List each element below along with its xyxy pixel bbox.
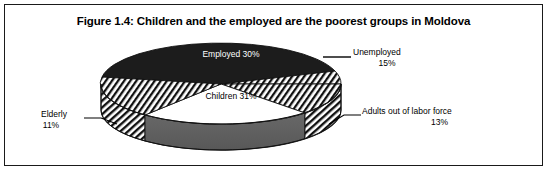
callout-label-adults-percent: 13% [362,117,482,128]
slice-label-employed-name: Employed [202,49,240,59]
figure-frame: Figure 1.4: Children and the employed ar… [4,4,543,166]
callout-label-unemployed: Unemployed 15% [353,47,425,69]
callout-label-unemployed-percent: 15% [353,58,425,69]
callout-label-adults-name: Adults out of labor force [362,106,482,117]
slice-label-employed: Employed 30% [191,49,271,60]
slice-label-children-percent: 31% [240,91,257,101]
callout-label-adults-out-of-labor-force: Adults out of labor force 13% [362,106,482,128]
callout-label-elderly-name: Elderly [41,109,67,120]
callout-label-elderly: Elderly 11% [41,109,67,131]
pie-chart-3d [5,5,543,166]
slice-label-children-name: Children [205,91,237,101]
slice-label-employed-percent: 30% [243,49,260,59]
callout-label-elderly-percent: 11% [41,120,67,131]
callout-label-unemployed-name: Unemployed [353,47,425,58]
slice-label-children: Children 31% [191,91,271,102]
